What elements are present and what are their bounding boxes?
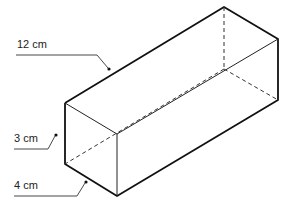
cuboid-diagram (0, 0, 295, 208)
length-label: 12 cm (17, 38, 47, 50)
width-label: 4 cm (14, 179, 38, 191)
cuboid-inner-edges (65, 39, 278, 196)
leader-lines (14, 55, 108, 196)
height-label: 3 cm (14, 132, 38, 144)
cuboid-hidden-edges (65, 7, 278, 164)
